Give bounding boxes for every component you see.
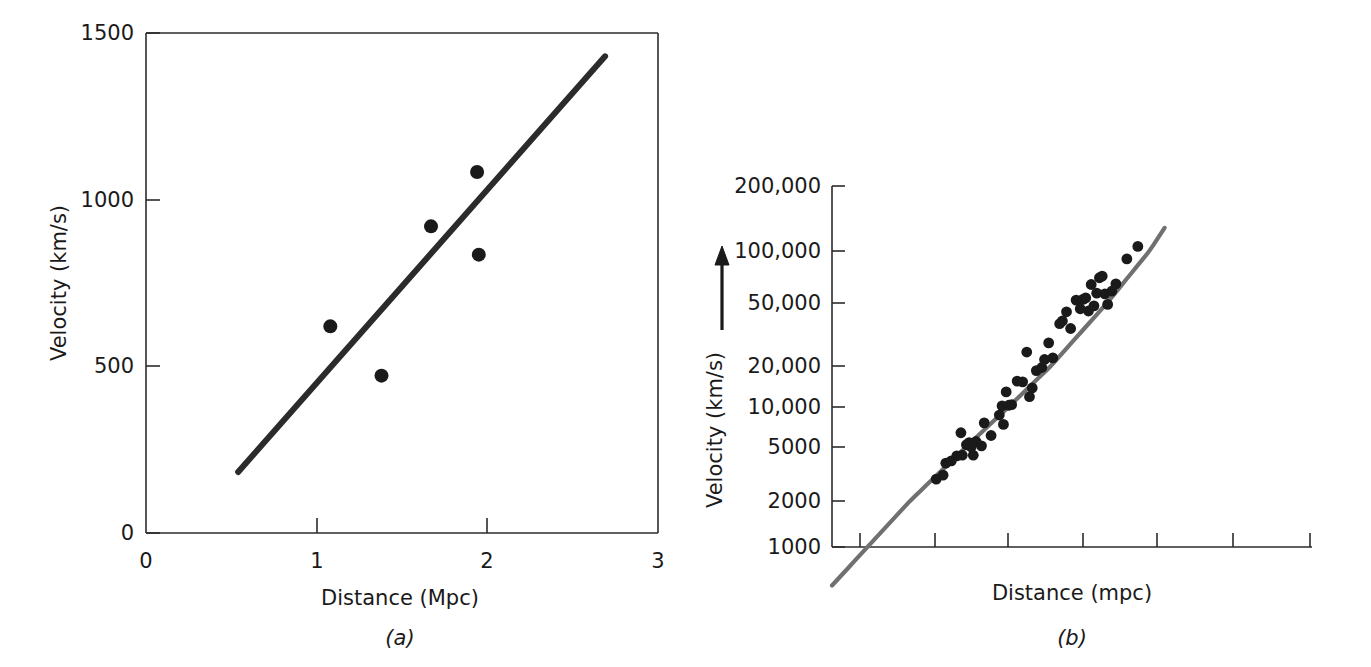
panel-b-data-points xyxy=(931,241,1143,484)
panel-a-data-point-2 xyxy=(424,219,438,233)
panel-b-data-point-1 xyxy=(938,470,949,481)
panel-a-y-ticks: 1500 1000 500 0 xyxy=(81,21,160,545)
y-tick-label-1000: 1000 xyxy=(81,188,134,212)
figure-root: 1500 1000 500 0 0 1 2 3 Velocity (km/s) … xyxy=(0,0,1371,667)
panel-b-y-tick-label-10000: 10,000 xyxy=(748,395,821,419)
panel-b-y-tick-label-100000: 100,000 xyxy=(734,239,821,263)
panel-b-data-point-38 xyxy=(1080,293,1091,304)
panel-b-data-point-15 xyxy=(994,410,1005,421)
panel-b-data-point-25 xyxy=(1027,383,1038,394)
x-tick-label-0: 0 xyxy=(139,549,152,573)
panel-a-trend-line xyxy=(238,56,605,472)
panel-b-data-point-22 xyxy=(1017,376,1028,387)
x-tick-label-1: 1 xyxy=(310,549,323,573)
panel-b-chart: 10002000500010,00020,00050,000100,000200… xyxy=(690,0,1371,667)
panel-b-data-point-49 xyxy=(1121,254,1132,265)
panel-b-data-point-30 xyxy=(1047,353,1058,364)
panel-b-data-point-23 xyxy=(1021,347,1032,358)
panel-b-data-point-50 xyxy=(1132,241,1143,252)
panel-b-data-point-17 xyxy=(998,419,1009,430)
panel-a-chart: 1500 1000 500 0 0 1 2 3 Velocity (km/s) … xyxy=(0,0,690,667)
panel-b-y-tick-label-50000: 50,000 xyxy=(748,291,821,315)
panel-b-x-axis-title: Distance (mpc) xyxy=(992,581,1152,605)
y-tick-label-500: 500 xyxy=(94,354,134,378)
panel-b-data-point-41 xyxy=(1089,300,1100,311)
panel-b-data-point-34 xyxy=(1065,323,1076,334)
panel-b-y-tick-label-20000: 20,000 xyxy=(748,354,821,378)
panel-a-data-point-1 xyxy=(375,369,389,383)
panel-b-data-point-33 xyxy=(1061,306,1072,317)
up-arrow-icon xyxy=(715,246,729,330)
panel-b-y-tick-label-5000: 5000 xyxy=(768,435,821,459)
panel-b-data-point-18 xyxy=(1001,387,1012,398)
panel-a-x-axis-title: Distance (Mpc) xyxy=(321,586,479,610)
panel-a-data-point-4 xyxy=(472,248,486,262)
x-tick-label-2: 2 xyxy=(480,549,493,573)
panel-a-x-ticks: 0 1 2 3 xyxy=(139,518,664,573)
panel-b-data-point-10 xyxy=(968,450,979,461)
y-tick-label-1500: 1500 xyxy=(81,21,134,45)
panel-b-y-tick-label-200000: 200,000 xyxy=(734,174,821,198)
panel-b-y-tick-label-2000: 2000 xyxy=(768,489,821,513)
panel-b-data-point-29 xyxy=(1043,337,1054,348)
panel-a-fit-line xyxy=(238,56,605,472)
panel-a-y-axis-title: Velocity (km/s) xyxy=(47,205,71,361)
panel-b-y-ticks: 10002000500010,00020,00050,000100,000200… xyxy=(734,174,845,559)
panel-b-x-ticks xyxy=(860,533,1310,547)
panel-b-data-point-46 xyxy=(1102,299,1113,310)
panel-b-data-point-12 xyxy=(976,440,987,451)
panel-b-data-point-13 xyxy=(979,417,990,428)
panel-b-y-tick-label-1000: 1000 xyxy=(768,535,821,559)
panel-b-data-point-5 xyxy=(956,427,967,438)
panel-b-axes xyxy=(832,186,1312,547)
x-tick-label-3: 3 xyxy=(651,549,664,573)
panel-a-data-point-0 xyxy=(323,319,337,333)
panel-b-y-axis-title: Velocity (km/s) xyxy=(703,352,727,508)
panel-b-data-point-6 xyxy=(957,450,968,461)
panel-a-data-point-3 xyxy=(470,165,484,179)
panel-b-data-point-14 xyxy=(986,430,997,441)
panel-b-data-point-32 xyxy=(1057,316,1068,327)
panel-b-data-point-48 xyxy=(1110,278,1121,289)
y-tick-label-0: 0 xyxy=(121,521,134,545)
panel-a-caption: (a) xyxy=(385,626,414,650)
panel-b-data-point-20 xyxy=(1006,399,1017,410)
panel-b-data-point-44 xyxy=(1097,271,1108,282)
panel-b-caption: (b) xyxy=(1057,626,1087,650)
